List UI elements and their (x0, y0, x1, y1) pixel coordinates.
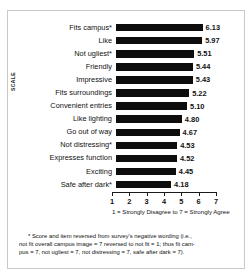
x-axis-tick (147, 192, 148, 196)
bar-value-label: 5.10 (190, 102, 204, 111)
footnote-line-3: pus = 7, not ugliest = 7, not distressin… (19, 249, 235, 257)
bar-value-label: 4.80 (185, 115, 199, 124)
bar-track: 4.45 (116, 165, 220, 178)
bar-track: 4.67 (116, 126, 220, 139)
x-axis-tick-label: 3 (145, 197, 149, 206)
bar-value-label: 4.52 (180, 154, 194, 163)
bar (116, 142, 177, 150)
bar-value-label: 4.18 (174, 180, 188, 189)
bar-row: Impressive5.43 (18, 73, 240, 86)
bar-row: Like5.97 (18, 34, 240, 47)
x-axis-tick-label: 5 (179, 197, 183, 206)
bar-category-label: Convenient entries (18, 102, 116, 110)
bar (116, 50, 194, 58)
bar-track: 5.97 (116, 34, 220, 47)
bar-value-label: 5.43 (196, 75, 210, 84)
footnote: * Score and item reversed from survey's … (19, 233, 235, 256)
bar-row: Like lighting4.80 (18, 113, 240, 126)
bar-category-label: Impressive (18, 76, 116, 84)
bar-category-label: Go out of way (18, 128, 116, 136)
x-axis-tick (181, 192, 182, 196)
bar-value-label: 4.45 (179, 167, 193, 176)
bar-category-label: Not distressing* (18, 141, 116, 149)
bar-row: Safe after dark*4.18 (18, 178, 240, 191)
x-axis-caption: 1 = Strongly Disagree to 7 = Strongly Ag… (112, 208, 216, 215)
bar-row: Convenient entries5.10 (18, 100, 240, 113)
bar (116, 168, 176, 176)
bar (116, 155, 177, 163)
bar-track: 4.80 (116, 113, 220, 126)
x-axis-tick-label: 6 (197, 197, 201, 206)
bar-value-label: 5.44 (196, 62, 210, 71)
x-axis-tick-label: 4 (162, 197, 166, 206)
bar (116, 76, 193, 84)
bar-track: 5.22 (116, 86, 220, 99)
chart-figure: SCALE Fits campus*6.13Like5.97Not uglies… (7, 10, 245, 269)
bar-category-label: Expresses function (18, 154, 116, 162)
bar (116, 63, 193, 71)
bar-row: Expresses function4.52 (18, 152, 240, 165)
bar-category-label: Fits surroundings (18, 89, 116, 97)
x-axis-tick (112, 192, 113, 196)
x-axis-tick (129, 192, 130, 196)
bar-track: 5.43 (116, 73, 220, 86)
bar (116, 129, 180, 137)
bar-row: Not distressing*4.53 (18, 139, 240, 152)
bar-value-label: 5.97 (205, 36, 219, 45)
bar-category-label: Like lighting (18, 115, 116, 123)
bar (116, 89, 189, 97)
bar-row: Not ugliest*5.51 (18, 47, 240, 60)
bar-value-label: 4.53 (180, 141, 194, 150)
bar-value-label: 5.51 (197, 49, 211, 58)
bar-track: 6.13 (116, 21, 220, 34)
bar-track: 4.53 (116, 139, 220, 152)
bar-row: Friendly5.44 (18, 60, 240, 73)
bar-category-label: Like (18, 37, 116, 45)
x-axis-tick-label: 7 (214, 197, 218, 206)
bar-value-label: 5.22 (192, 89, 206, 98)
bar-category-label: Friendly (18, 63, 116, 71)
bar-rows: Fits campus*6.13Like5.97Not ugliest*5.51… (18, 21, 240, 191)
bar (116, 102, 187, 110)
x-axis-tick (199, 192, 200, 196)
bar-category-label: Not ugliest* (18, 50, 116, 58)
footnote-line-2: not fit overall campus image = 7 reverse… (19, 241, 235, 249)
bar-value-label: 6.13 (206, 23, 220, 32)
bar-category-label: Fits campus* (18, 24, 116, 32)
footnote-line-1: * Score and item reversed from survey's … (19, 233, 235, 241)
bar (116, 24, 203, 32)
bar (116, 181, 171, 189)
plot-area: SCALE Fits campus*6.13Like5.97Not uglies… (8, 17, 246, 217)
bar-row: Fits surroundings5.22 (18, 86, 240, 99)
x-axis-tick (216, 192, 217, 196)
y-axis-title: SCALE (10, 72, 16, 91)
bar-row: Fits campus*6.13 (18, 21, 240, 34)
x-axis-tick (164, 192, 165, 196)
bar-track: 5.51 (116, 47, 220, 60)
bar-track: 5.44 (116, 60, 220, 73)
bar-track: 5.10 (116, 100, 220, 113)
bar-track: 4.18 (116, 178, 220, 191)
bar-track: 4.52 (116, 152, 220, 165)
bar-category-label: Exciting (18, 168, 116, 176)
x-axis: 1 = Strongly Disagree to 7 = Strongly Ag… (112, 192, 216, 218)
bar-row: Go out of way4.67 (18, 126, 240, 139)
bar-value-label: 4.67 (183, 128, 197, 137)
x-axis-tick-label: 1 (110, 197, 114, 206)
bar-row: Exciting4.45 (18, 165, 240, 178)
x-axis-tick-label: 2 (127, 197, 131, 206)
bar (116, 37, 202, 45)
bar-category-label: Safe after dark* (18, 181, 116, 189)
bar (116, 115, 182, 123)
